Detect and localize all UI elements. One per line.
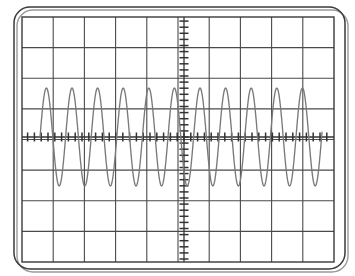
oscilloscope-screen	[0, 0, 355, 276]
scope-render-surface	[0, 0, 355, 276]
bezel-shadow	[17, 10, 348, 272]
